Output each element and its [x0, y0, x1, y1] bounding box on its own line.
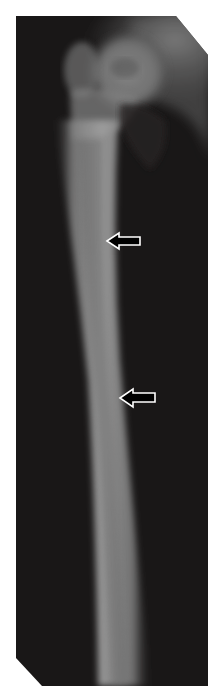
film-grain: [0, 0, 221, 697]
femur-radiograph: [0, 0, 221, 697]
radiograph-content: [0, 0, 221, 697]
